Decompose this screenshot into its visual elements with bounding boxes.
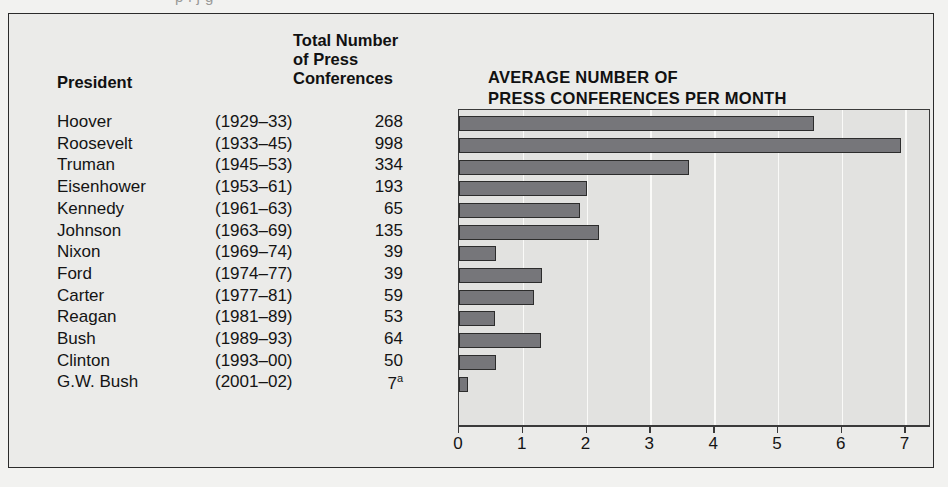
table-row: Reagan(1981–89)53 [9,307,439,329]
column-header-total-conferences: Total Number of Press Conferences [293,31,433,88]
x-axis-tick-label: 7 [889,434,919,454]
cell-president-name: Johnson [57,221,121,241]
cell-total-conferences: 39 [277,242,403,262]
x-axis-line [458,425,930,427]
bar [459,203,580,218]
chart-title-line1: AVERAGE NUMBER OF [488,67,787,88]
bar-row [459,373,931,395]
cell-president-name: Clinton [57,351,110,371]
table-row: Johnson(1963–69)135 [9,221,439,243]
x-axis-tick [458,426,459,433]
cell-president-name: G.W. Bush [57,372,138,392]
x-axis-tick [904,426,905,433]
table-row: Clinton(1993–00)50 [9,351,439,373]
bar-row [459,265,931,287]
table-row: Ford(1974–77)39 [9,264,439,286]
x-axis-tick [586,426,587,433]
column-header-total-line2: of Press [293,50,433,69]
chart-title: AVERAGE NUMBER OF PRESS CONFERENCES PER … [488,67,787,109]
x-axis-tick-label: 0 [443,434,473,454]
table-row: Hoover(1929–33)268 [9,112,439,134]
bar-row [459,178,931,200]
bar [459,246,496,261]
bar-row [459,287,931,309]
cell-president-name: Ford [57,264,92,284]
x-axis-tick-label: 4 [698,434,728,454]
table-row: Truman(1945–53)334 [9,155,439,177]
cell-total-conferences: 334 [277,155,403,175]
cell-total-conferences: 50 [277,351,403,371]
page-bleed-text: p l j g [0,0,948,11]
bar-row [459,243,931,265]
footnote-marker: a [397,372,403,384]
cell-total-conferences: 998 [277,134,403,154]
president-table: President Total Number of Press Conferen… [9,14,439,467]
column-header-total-line3: Conferences [293,69,433,88]
cell-total-conferences: 7a [277,372,403,394]
bar-row [459,330,931,352]
bar [459,268,542,283]
x-axis-tick-label: 1 [507,434,537,454]
cell-president-name: Eisenhower [57,177,146,197]
table-row: Kennedy(1961–63)65 [9,199,439,221]
cell-president-name: Reagan [57,307,117,327]
chart-title-line2: PRESS CONFERENCES PER MONTH [488,88,787,109]
cell-total-conferences: 193 [277,177,403,197]
bar [459,160,689,175]
table-row: Carter(1977–81)59 [9,286,439,308]
column-header-total-line1: Total Number [293,31,433,50]
bar [459,138,901,153]
bleed-text-line: p l j g [175,0,214,5]
cell-president-name: Nixon [57,242,100,262]
plot-area [458,109,930,426]
bar-row [459,222,931,244]
bar [459,290,534,305]
bar [459,116,814,131]
x-axis-tick-label: 3 [634,434,664,454]
cell-total-conferences: 53 [277,307,403,327]
x-axis-tick [522,426,523,433]
cell-total-conferences: 65 [277,199,403,219]
x-axis-tick [713,426,714,433]
cell-total-conferences: 59 [277,286,403,306]
cell-president-name: Bush [57,329,96,349]
bar [459,355,496,370]
bar-row [459,113,931,135]
column-header-president: President [57,73,132,92]
x-axis-tick-label: 5 [762,434,792,454]
table-row: G.W. Bush(2001–02)7a [9,372,439,394]
bar [459,181,587,196]
bar [459,311,495,326]
bar-row [459,200,931,222]
table-row: Bush(1989–93)64 [9,329,439,351]
cell-total-conferences: 64 [277,329,403,349]
cell-president-name: Truman [57,155,115,175]
table-row: Nixon(1969–74)39 [9,242,439,264]
cell-president-name: Kennedy [57,199,124,219]
bar [459,225,599,240]
figure-frame: President Total Number of Press Conferen… [8,13,934,468]
bar-row [459,308,931,330]
cell-president-name: Roosevelt [57,134,133,154]
bar [459,333,541,348]
cell-total-conferences: 135 [277,221,403,241]
cell-president-name: Carter [57,286,104,306]
cell-president-name: Hoover [57,112,112,132]
cell-total-conferences: 39 [277,264,403,284]
bar-chart: AVERAGE NUMBER OF PRESS CONFERENCES PER … [439,14,933,467]
cell-total-conferences: 268 [277,112,403,132]
x-axis-tick-label: 6 [826,434,856,454]
bar-row [459,135,931,157]
table-row: Eisenhower(1953–61)193 [9,177,439,199]
x-axis-tick [777,426,778,433]
x-axis-tick [841,426,842,433]
bar-row [459,156,931,178]
bar [459,377,468,392]
bar-row [459,352,931,374]
x-axis-tick-label: 2 [571,434,601,454]
table-row: Roosevelt(1933–45)998 [9,134,439,156]
x-axis-tick [649,426,650,433]
